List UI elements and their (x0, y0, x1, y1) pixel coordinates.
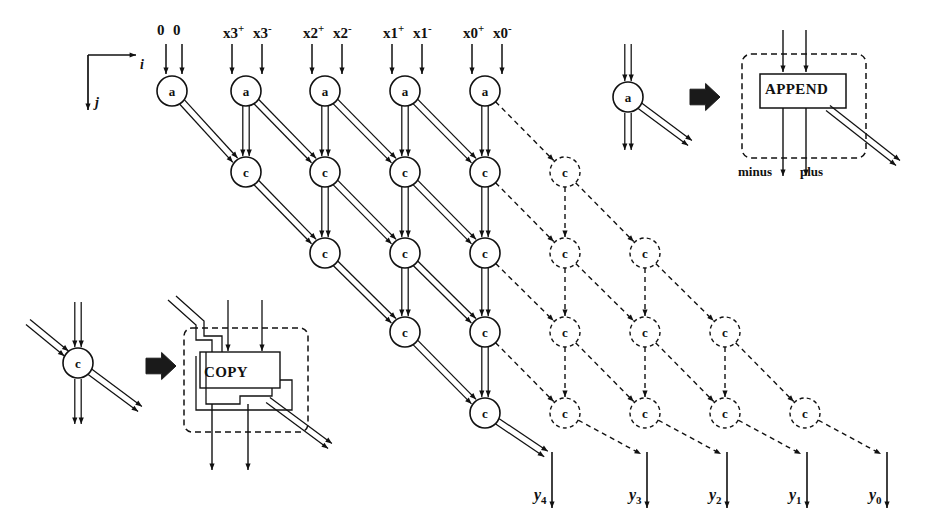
svg-text:c: c (482, 165, 488, 180)
figure-canvas: aaaaaccccccccccccccccccccac i j 00x3+x3-… (0, 0, 931, 528)
node-c: c (470, 238, 500, 268)
svg-text:c: c (562, 325, 568, 340)
svg-text:c: c (562, 165, 568, 180)
input-label-plus-3: x1+ (383, 22, 404, 42)
append-plus-label: plus (800, 164, 823, 180)
svg-text:c: c (642, 246, 648, 261)
output-label-y4: y4 (534, 486, 547, 506)
svg-text:c: c (562, 406, 568, 421)
dashed-node-c: c (790, 398, 820, 428)
svg-text:c: c (482, 406, 488, 421)
dashed-node-c: c (630, 317, 660, 347)
svg-text:a: a (169, 84, 176, 99)
node-a: a (470, 76, 500, 106)
svg-text:c: c (402, 325, 408, 340)
node-c: c (390, 157, 420, 187)
input-label-minus-0: 0 (173, 22, 181, 39)
svg-text:c: c (482, 325, 488, 340)
node-c: c (390, 238, 420, 268)
node-a: a (390, 76, 420, 106)
dashed-node-c: c (710, 398, 740, 428)
axis-label-j: j (95, 95, 99, 111)
node-a: a (157, 76, 187, 106)
legend-copy-node: c (63, 348, 93, 378)
svg-text:c: c (322, 165, 328, 180)
svg-text:c: c (243, 165, 249, 180)
svg-text:a: a (322, 84, 329, 99)
svg-text:a: a (402, 84, 409, 99)
svg-text:c: c (482, 246, 488, 261)
append-box-label: APPEND (765, 81, 828, 98)
output-label-y0: y0 (869, 486, 882, 506)
append-minus-label: minus (738, 164, 772, 180)
svg-text:c: c (562, 246, 568, 261)
input-label-minus-3: x1- (413, 22, 432, 42)
svg-text:a: a (625, 90, 632, 105)
dashed-node-c: c (630, 398, 660, 428)
node-c: c (470, 398, 500, 428)
dashed-node-c: c (630, 238, 660, 268)
input-label-minus-4: x0- (493, 22, 512, 42)
output-label-y2: y2 (709, 486, 722, 506)
svg-text:c: c (722, 406, 728, 421)
input-label-minus-2: x2- (333, 22, 352, 42)
output-label-y3: y3 (629, 486, 642, 506)
node-c: c (231, 157, 261, 187)
svg-text:a: a (243, 84, 250, 99)
axis-label-i: i (140, 57, 144, 73)
svg-text:c: c (402, 165, 408, 180)
input-label-plus-1: x3+ (223, 22, 244, 42)
node-c: c (310, 238, 340, 268)
svg-text:c: c (642, 406, 648, 421)
svg-text:c: c (802, 406, 808, 421)
dashed-node-c: c (550, 238, 580, 268)
input-label-plus-2: x2+ (303, 22, 324, 42)
node-c: c (390, 317, 420, 347)
input-label-minus-1: x3- (253, 22, 272, 42)
svg-text:c: c (722, 325, 728, 340)
dashed-node-c: c (710, 317, 740, 347)
svg-text:c: c (642, 325, 648, 340)
input-label-plus-4: x0+ (463, 22, 484, 42)
legend-append-node: a (613, 82, 643, 112)
node-a: a (310, 76, 340, 106)
output-label-y1: y1 (789, 486, 802, 506)
dashed-node-c: c (550, 157, 580, 187)
svg-text:a: a (482, 84, 489, 99)
diagram-artwork: aaaaaccccccccccccccccccccac (0, 0, 931, 528)
svg-text:c: c (322, 246, 328, 261)
node-a: a (231, 76, 261, 106)
copy-box-label: COPY (204, 364, 248, 381)
dashed-node-c: c (550, 317, 580, 347)
node-c: c (310, 157, 340, 187)
dashed-node-c: c (550, 398, 580, 428)
input-label-plus-0: 0 (157, 22, 165, 39)
node-c: c (470, 157, 500, 187)
svg-text:c: c (402, 246, 408, 261)
svg-text:c: c (75, 356, 81, 371)
node-c: c (470, 317, 500, 347)
